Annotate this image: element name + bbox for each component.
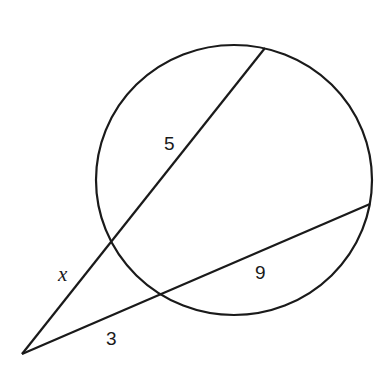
label-secant1-internal: 5 [164,134,175,153]
secant-upper [22,48,265,354]
diagram-canvas: 5 x 9 3 [0,0,386,371]
label-secant1-external: x [58,264,67,285]
label-secant2-internal: 9 [255,263,266,282]
diagram-svg [0,0,386,371]
label-secant2-external: 3 [106,329,117,348]
secant-lower [22,204,370,354]
